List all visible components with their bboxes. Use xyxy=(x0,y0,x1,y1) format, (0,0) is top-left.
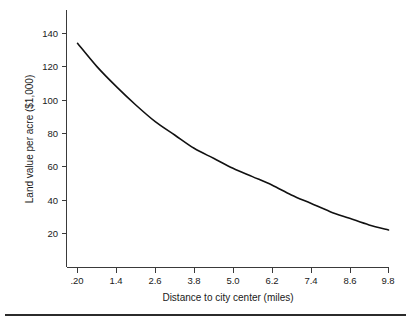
chart-figure: 140 120 100 80 60 40 20 .20 1.4 2.6 3.8 xyxy=(0,0,413,325)
y-tick-label: 40 xyxy=(47,195,58,206)
x-tick-label: 2.6 xyxy=(148,275,161,286)
x-tick-label: 8.6 xyxy=(343,275,356,286)
x-tick-label: 1.4 xyxy=(109,275,122,286)
y-tick-label: 120 xyxy=(42,61,58,72)
y-axis-label: Land value per acre ($1,000) xyxy=(24,75,35,203)
x-tick-label: 5.0 xyxy=(226,275,239,286)
x-tick-labels: .20 1.4 2.6 3.8 5.0 6.2 7.4 8.6 9.8 xyxy=(70,275,394,286)
x-axis-label: Distance to city center (miles) xyxy=(162,292,293,303)
x-tick-label: 9.8 xyxy=(381,275,394,286)
x-tick-label: 3.8 xyxy=(187,275,200,286)
x-tick-label: .20 xyxy=(70,275,83,286)
footer-divider-rule xyxy=(5,314,406,316)
x-tick-label: 6.2 xyxy=(265,275,278,286)
y-tick-label: 140 xyxy=(42,28,58,39)
y-tick-label: 60 xyxy=(47,161,58,172)
land-value-line-chart: 140 120 100 80 60 40 20 .20 1.4 2.6 3.8 xyxy=(0,0,413,325)
y-tick-label: 80 xyxy=(47,128,58,139)
y-tick-label: 100 xyxy=(42,95,58,106)
x-tick-label: 7.4 xyxy=(304,275,317,286)
y-tick-label: 20 xyxy=(47,228,58,239)
